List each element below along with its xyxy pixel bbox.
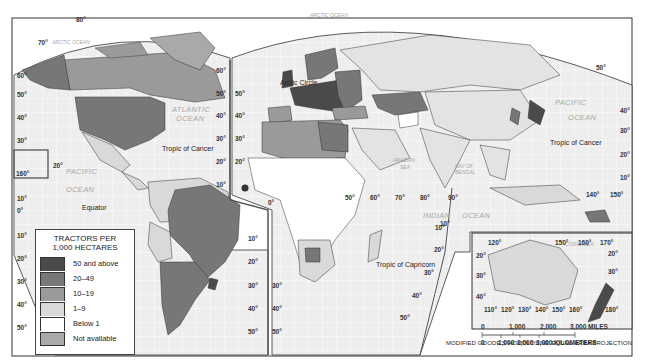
- inset-latitude-label: 40°: [476, 293, 486, 300]
- inset-longitude-label: 130°: [518, 306, 532, 313]
- legend-title-line1: TRACTORS PER: [36, 234, 134, 243]
- inset-longitude-label: 110°: [484, 306, 497, 313]
- latitude-label: 30°: [620, 127, 630, 134]
- legend-swatch: [40, 302, 65, 316]
- legend-swatch: [40, 272, 65, 286]
- latitude-label: 30°: [248, 282, 258, 289]
- legend-swatch: [40, 317, 65, 331]
- legend-label: Below 1: [73, 319, 100, 328]
- latitude-label: 20°: [248, 258, 258, 265]
- label-arctic-ocean-east: ARCTIC OCEAN: [309, 12, 348, 18]
- legend-title: TRACTORS PER 1,000 HECTARES: [36, 234, 134, 252]
- latitude-label: 30°: [272, 282, 282, 289]
- legend-swatch: [40, 287, 65, 301]
- latitude-label: 30°: [17, 278, 27, 285]
- latitude-label: 10°: [620, 174, 630, 181]
- legend-item: 50 and above: [40, 256, 134, 271]
- label-alaska-80: 80°: [76, 16, 86, 23]
- inset-longitude-label: 180°: [605, 306, 619, 313]
- inset-latitude-label: 20°: [608, 250, 618, 257]
- latitude-label: 50°: [400, 314, 410, 321]
- legend-label: 50 and above: [73, 259, 118, 268]
- projection-credit: MODIFIED GOODE'S HOMOLOSINE EQUAL-AREA P…: [412, 340, 632, 346]
- legend-item: 20–49: [40, 271, 134, 286]
- latitude-label: 20°: [216, 158, 226, 165]
- scale-miles-label: 2,000: [540, 323, 557, 331]
- latitude-label: 60°: [17, 72, 27, 79]
- label-arabian-1: ARABIAN: [392, 157, 415, 163]
- inset-longitude-label: 150°: [552, 306, 566, 313]
- turkey: [332, 106, 368, 120]
- latitude-label: 20°: [17, 255, 27, 262]
- latitude-label: 10°: [248, 235, 258, 242]
- label-indian-1: INDIAN: [423, 211, 451, 220]
- latitude-label: 20°: [434, 246, 444, 253]
- afghanistan: [398, 112, 418, 128]
- inset-latitude-label: 30°: [476, 272, 486, 279]
- latitude-label: 50°: [216, 90, 226, 97]
- inset-longitude-label: 120°: [488, 239, 502, 246]
- latitude-label: 30°: [235, 135, 245, 142]
- label-arabian-2: SEA: [400, 164, 411, 170]
- label-atlantic-2: OCEAN: [176, 114, 204, 123]
- inset-longitude-label: 170°: [600, 239, 614, 246]
- legend-swatch: [40, 332, 65, 346]
- guinea-dot: [242, 185, 249, 192]
- label-alaska-70: 70°: [38, 39, 48, 46]
- latitude-label: 40°: [620, 107, 630, 114]
- latitude-label: 40°: [248, 305, 258, 312]
- longitude-label: 90°: [448, 194, 458, 201]
- longitude-label: 140°: [586, 191, 600, 198]
- legend-item: 1–9: [40, 301, 134, 316]
- legend-label: 20–49: [73, 274, 94, 283]
- latitude-label: 50°: [17, 91, 27, 98]
- legend-label: 1–9: [73, 304, 86, 313]
- latitude-label: 0°: [17, 207, 24, 214]
- inset-longitude-label: 140°: [535, 306, 549, 313]
- legend: TRACTORS PER 1,000 HECTARES 50 and above…: [35, 229, 135, 355]
- label-pacific-west-1: PACIFIC: [66, 167, 97, 176]
- latitude-label: 30°: [216, 135, 226, 142]
- longitude-label: 150°: [610, 191, 624, 198]
- egypt-libya: [318, 122, 348, 152]
- legend-swatch: [40, 257, 65, 271]
- latitude-label: 30°: [17, 137, 27, 144]
- label-tropic-capricorn: Tropic of Capricorn: [376, 261, 435, 269]
- label-zero-meridian: 0°: [268, 199, 275, 206]
- label-arctic-ocean-west: ARCTIC OCEAN: [51, 39, 90, 45]
- latitude-label: 50°: [248, 328, 258, 335]
- scale-miles-label: 1,000: [509, 323, 526, 331]
- inset-latitude-label: 20°: [476, 252, 486, 259]
- label-indian-10: 10°: [435, 224, 445, 231]
- label-tropic-cancer-west: Tropic of Cancer: [162, 145, 214, 153]
- legend-label: Not available: [73, 334, 116, 343]
- latitude-label: 40°: [216, 112, 226, 119]
- label-hawaii-20: 20°: [53, 162, 63, 169]
- label-hawaii-160: 160°: [16, 170, 30, 177]
- latitude-label: 50°: [235, 90, 245, 97]
- latitude-label: 40°: [235, 112, 245, 119]
- scale-miles-label: 3,000 MILES: [570, 323, 609, 331]
- legend-item: Below 1: [40, 316, 134, 331]
- inset-latitude-label: 30°: [608, 268, 618, 275]
- label-equator: Equator: [82, 204, 107, 212]
- latitude-label: 40°: [412, 292, 422, 299]
- label-pacific-50: 50°: [596, 64, 606, 71]
- label-indian-2: OCEAN: [462, 211, 490, 220]
- inset-longitude-label: 150°: [555, 239, 569, 246]
- latitude-label: 60°: [216, 67, 226, 74]
- latitude-label: 10°: [216, 181, 226, 188]
- botswana: [305, 248, 320, 262]
- label-pacific-east-1: PACIFIC: [555, 98, 586, 107]
- latitude-label: 40°: [17, 301, 27, 308]
- legend-items: 50 and above20–4910–191–9Below 1Not avai…: [36, 256, 134, 346]
- inset-longitude-label: 160°: [569, 306, 583, 313]
- inset-longitude-label: 160°: [578, 239, 592, 246]
- latitude-label: 30°: [424, 269, 434, 276]
- inset-longitude-label: 120°: [501, 306, 515, 313]
- label-pacific-east-2: OCEAN: [568, 113, 596, 122]
- longitude-label: 50°: [345, 194, 355, 201]
- latitude-label: 20°: [235, 158, 245, 165]
- latitude-label: 50°: [17, 324, 27, 331]
- label-bengal-2: BENGAL: [455, 169, 476, 175]
